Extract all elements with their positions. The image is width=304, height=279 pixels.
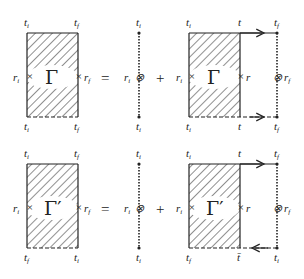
label-t-i: ti bbox=[186, 16, 191, 30]
label-t-f: tf bbox=[74, 16, 80, 30]
gamma-prime-symbol: Γ′ bbox=[44, 197, 62, 219]
label-t-f: tf bbox=[74, 147, 80, 161]
cross-mark-icon: × bbox=[26, 70, 33, 82]
label-r-f: rf bbox=[84, 202, 91, 216]
gamma-symbol: Γ bbox=[207, 66, 220, 88]
plus-sign: + bbox=[156, 70, 164, 86]
gamma-prime-symbol: Γ′ bbox=[206, 197, 224, 219]
cross-mark-icon: × bbox=[26, 201, 33, 213]
cross-circle-icon: ⊗ bbox=[273, 202, 283, 214]
gamma-box-extended: Γ × × ⊗ bbox=[188, 31, 283, 118]
cross-mark-icon: × bbox=[188, 70, 195, 82]
label-t-i: ti bbox=[186, 120, 191, 134]
label-r-f: rf bbox=[84, 71, 91, 85]
free-propagator: ⊗ bbox=[135, 162, 145, 249]
label-t-i: ti bbox=[136, 120, 141, 134]
gamma-prime-box: Γ′ × × bbox=[26, 164, 82, 248]
label-r-i: ri bbox=[13, 202, 19, 216]
label-r-i: ri bbox=[176, 71, 182, 85]
label-t: t bbox=[238, 16, 242, 28]
equals-sign: = bbox=[101, 201, 109, 217]
row-1: Γ × × ti tf ti tf ri rf = ⊗ ti ti ri + bbox=[13, 16, 291, 134]
gamma-box: Γ × × bbox=[26, 33, 82, 117]
label-r-f: rf bbox=[284, 202, 291, 216]
label-t-i: ti bbox=[74, 251, 79, 265]
label-t-bar: t̄ bbox=[237, 251, 241, 263]
label-t: t bbox=[238, 120, 242, 132]
cross-mark-icon: × bbox=[237, 201, 244, 213]
label-r-i: ri bbox=[124, 71, 130, 85]
label-t: t bbox=[238, 147, 242, 159]
cross-mark-icon: × bbox=[237, 70, 244, 82]
label-t-f: tf bbox=[186, 251, 192, 265]
free-propagator: ⊗ bbox=[135, 31, 145, 118]
label-t-i: ti bbox=[136, 147, 141, 161]
label-r-i: ri bbox=[176, 202, 182, 216]
plus-sign: + bbox=[156, 201, 164, 217]
label-t-f: tf bbox=[74, 120, 80, 134]
cross-circle-icon: ⊗ bbox=[135, 71, 145, 83]
cross-circle-icon: ⊗ bbox=[273, 71, 283, 83]
cross-mark-icon: × bbox=[75, 70, 82, 82]
label-t-i: ti bbox=[274, 251, 279, 265]
label-r: r bbox=[246, 71, 251, 83]
equals-sign: = bbox=[101, 70, 109, 86]
label-t-f: tf bbox=[274, 120, 280, 134]
label-t-i: ti bbox=[186, 147, 191, 161]
label-t-i: ti bbox=[136, 251, 141, 265]
label-r-i: ri bbox=[124, 202, 130, 216]
cross-circle-icon: ⊗ bbox=[135, 202, 145, 214]
label-t-f: tf bbox=[274, 16, 280, 30]
row-2: Γ′ × × ti tf tf ti ri rf = ⊗ ti ti ri + bbox=[13, 147, 291, 265]
gamma-prime-box-extended: Γ′ × × ⊗ bbox=[188, 162, 283, 249]
cross-mark-icon: × bbox=[188, 201, 195, 213]
label-t-i: ti bbox=[136, 16, 141, 30]
label-t-f: tf bbox=[24, 251, 30, 265]
label-r: r bbox=[246, 202, 251, 214]
label-t-f: tf bbox=[274, 147, 280, 161]
label-t-i: ti bbox=[24, 16, 29, 30]
label-r-f: rf bbox=[284, 71, 291, 85]
label-r-i: ri bbox=[13, 71, 19, 85]
gamma-symbol: Γ bbox=[45, 66, 58, 88]
label-t-i: ti bbox=[24, 147, 29, 161]
cross-mark-icon: × bbox=[75, 201, 82, 213]
diagram-canvas: Γ × × ti tf ti tf ri rf = ⊗ ti ti ri + bbox=[0, 0, 304, 279]
label-t-i: ti bbox=[24, 120, 29, 134]
